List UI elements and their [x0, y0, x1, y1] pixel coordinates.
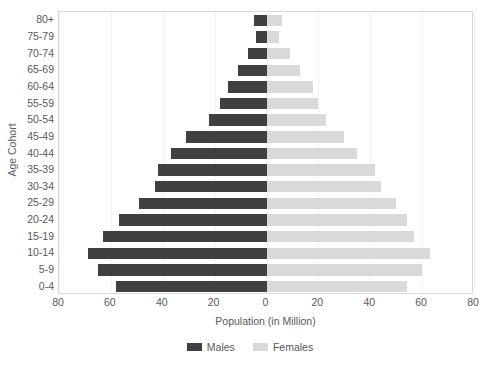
x-axis-tick-label: 60: [415, 296, 427, 308]
bar-males[interactable]: [238, 65, 267, 76]
y-axis-tick-label: 40-44: [14, 148, 54, 158]
bar-females[interactable]: [267, 65, 301, 76]
y-axis-tick-label: 0-4: [14, 281, 54, 291]
gridline: [474, 12, 475, 293]
bar-males[interactable]: [228, 81, 267, 92]
y-axis-tick-label: 80+: [14, 14, 54, 24]
bar-row: [59, 145, 472, 162]
y-axis-tick-label: 10-14: [14, 247, 54, 257]
y-axis-tick-label: 15-19: [14, 231, 54, 241]
y-axis-tick-label: 55-59: [14, 98, 54, 108]
legend-label-females: Females: [273, 341, 313, 353]
bar-row: [59, 212, 472, 229]
x-axis-tick-label: 0: [263, 296, 269, 308]
bar-females[interactable]: [267, 181, 381, 192]
population-pyramid-chart: Age Cohort 80+75-7970-7465-6960-6455-595…: [0, 0, 500, 368]
bar-males[interactable]: [220, 98, 267, 109]
y-axis-tick-label: 35-39: [14, 164, 54, 174]
bar-females[interactable]: [267, 15, 283, 26]
x-axis-tick-labels: 80604020020406080: [58, 296, 473, 312]
bar-row: [59, 262, 472, 279]
bar-males[interactable]: [98, 264, 267, 275]
bar-males[interactable]: [186, 131, 266, 142]
bar-row: [59, 178, 472, 195]
bar-males[interactable]: [116, 281, 266, 292]
bar-males[interactable]: [119, 214, 267, 225]
bar-males[interactable]: [171, 148, 267, 159]
y-axis-tick-labels: 80+75-7970-7465-6960-6455-5950-5445-4940…: [14, 11, 54, 294]
bar-males[interactable]: [248, 48, 266, 59]
x-axis-tick-label: 40: [156, 296, 168, 308]
x-axis-tick-label: 60: [104, 296, 116, 308]
bar-row: [59, 162, 472, 179]
bar-row: [59, 62, 472, 79]
bar-row: [59, 45, 472, 62]
y-axis-tick-label: 75-79: [14, 31, 54, 41]
y-axis-tick-label: 65-69: [14, 64, 54, 74]
x-axis-tick-label: 20: [312, 296, 324, 308]
bar-females[interactable]: [267, 148, 358, 159]
legend-swatch-females-icon: [253, 343, 268, 351]
chart-legend: Males Females: [0, 341, 500, 353]
bar-males[interactable]: [254, 15, 267, 26]
bar-males[interactable]: [88, 248, 267, 259]
bar-row: [59, 29, 472, 46]
bar-females[interactable]: [267, 131, 345, 142]
bar-females[interactable]: [267, 98, 319, 109]
bar-row: [59, 195, 472, 212]
bar-females[interactable]: [267, 231, 415, 242]
bar-males[interactable]: [158, 164, 267, 175]
legend-item-females[interactable]: Females: [253, 341, 313, 353]
bar-row: [59, 112, 472, 129]
bar-females[interactable]: [267, 198, 397, 209]
y-axis-tick-label: 60-64: [14, 81, 54, 91]
y-axis-tick-label: 30-34: [14, 181, 54, 191]
bar-row: [59, 129, 472, 146]
bar-row: [59, 228, 472, 245]
bar-females[interactable]: [267, 31, 280, 42]
legend-label-males: Males: [207, 341, 235, 353]
bar-females[interactable]: [267, 264, 423, 275]
bar-row: [59, 95, 472, 112]
bar-females[interactable]: [267, 48, 290, 59]
y-axis-tick-label: 5-9: [14, 264, 54, 274]
bar-males[interactable]: [103, 231, 266, 242]
legend-item-males[interactable]: Males: [187, 341, 235, 353]
x-axis-tick-label: 40: [363, 296, 375, 308]
bar-row: [59, 245, 472, 262]
bar-females[interactable]: [267, 164, 376, 175]
bar-females[interactable]: [267, 281, 407, 292]
bar-row: [59, 12, 472, 29]
y-axis-tick-label: 50-54: [14, 114, 54, 124]
x-axis-tick-label: 80: [52, 296, 64, 308]
bar-row: [59, 278, 472, 295]
y-axis-tick-label: 70-74: [14, 48, 54, 58]
x-axis-tick-label: 20: [208, 296, 220, 308]
y-axis-tick-label: 25-29: [14, 197, 54, 207]
bar-row: [59, 79, 472, 96]
bar-females[interactable]: [267, 214, 407, 225]
plot-area: [58, 11, 473, 294]
bar-females[interactable]: [267, 114, 327, 125]
bar-males[interactable]: [139, 198, 266, 209]
bar-males[interactable]: [256, 31, 266, 42]
y-axis-tick-label: 20-24: [14, 214, 54, 224]
bar-females[interactable]: [267, 248, 430, 259]
x-axis-title: Population (in Million): [58, 315, 473, 327]
x-axis-tick-label: 80: [467, 296, 479, 308]
y-axis-tick-label: 45-49: [14, 131, 54, 141]
bar-males[interactable]: [155, 181, 267, 192]
legend-swatch-males-icon: [187, 343, 202, 351]
bar-males[interactable]: [209, 114, 266, 125]
bar-females[interactable]: [267, 81, 314, 92]
